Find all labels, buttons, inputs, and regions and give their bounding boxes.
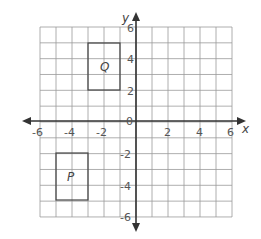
y-tick-2: 2: [127, 85, 134, 98]
x-tick-neg4: -4: [64, 126, 75, 139]
y-tick-neg4: -4: [120, 180, 131, 193]
x-tick-4: 4: [196, 126, 203, 139]
x-tick-2: 2: [164, 126, 171, 139]
y-axis-down-arrow-icon: [132, 223, 140, 232]
y-tick-4: 4: [127, 53, 134, 66]
x-tick-neg6: -6: [32, 126, 43, 139]
y-tick-neg6: -6: [120, 211, 131, 224]
coordinate-plane: Q P y x 0 -6 -4 -2 2 4 6 6 4 2 -2 -4 -6: [0, 0, 261, 239]
x-axis-left-arrow-icon: [22, 117, 31, 125]
label-q: Q: [100, 60, 109, 74]
y-axis-up-arrow-icon: [132, 12, 140, 21]
y-tick-neg2: -2: [120, 148, 131, 161]
label-p: P: [67, 170, 75, 184]
x-tick-6: 6: [227, 126, 234, 139]
y-tick-6: 6: [127, 22, 134, 35]
origin-label: 0: [126, 115, 133, 128]
x-axis-label: x: [241, 122, 250, 136]
x-tick-neg2: -2: [96, 126, 107, 139]
